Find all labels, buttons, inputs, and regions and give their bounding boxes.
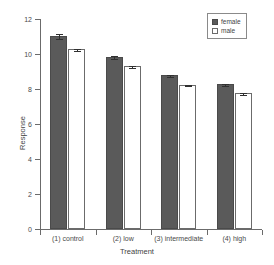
open-square-icon (212, 28, 218, 34)
bar-male-4 (235, 93, 252, 229)
y-tick-label: 12 (24, 16, 32, 23)
bar-male-1 (68, 49, 85, 229)
legend-label-female: female (221, 18, 241, 25)
error-bar-cap-lower-female-1 (56, 39, 63, 40)
legend-item-male: male (212, 26, 241, 35)
bar-male-2 (124, 66, 141, 229)
error-bar-cap-lower-female-3 (167, 77, 174, 78)
error-bar-cap-upper-female-3 (167, 75, 174, 76)
bar-female-1 (50, 36, 67, 230)
y-tick (35, 124, 40, 125)
x-tick-label-3: (3) intermediate (154, 235, 203, 243)
x-tick-label-4: (4) high (222, 235, 246, 243)
legend: female male (207, 13, 247, 39)
y-tick (35, 194, 40, 195)
error-bar-cap-lower-male-4 (240, 95, 247, 96)
y-tick (35, 89, 40, 90)
y-axis-title: Response (18, 116, 27, 150)
x-tick (262, 230, 263, 235)
error-bar-cap-lower-male-3 (185, 86, 192, 87)
error-bar-cap-upper-female-2 (111, 56, 118, 57)
y-tick-label: 8 (28, 86, 32, 93)
x-tick (207, 230, 208, 235)
error-bar-cap-lower-female-4 (222, 86, 229, 87)
y-axis-line (40, 19, 41, 230)
error-bar-cap-lower-female-2 (111, 59, 118, 60)
x-tick-label-1: (1) control (52, 235, 84, 243)
x-tick (96, 230, 97, 235)
error-bar-cap-upper-male-4 (240, 93, 247, 94)
filled-square-icon (212, 19, 218, 25)
x-tick (151, 230, 152, 235)
legend-label-male: male (221, 27, 235, 34)
x-tick-label-2: (2) low (113, 235, 134, 243)
y-tick-label: 0 (28, 226, 32, 233)
bar-chart-figure: Response Treatment 024681012 (1) control… (0, 0, 274, 265)
y-tick-label: 4 (28, 156, 32, 163)
x-tick (40, 230, 41, 235)
bar-female-4 (217, 84, 234, 229)
x-axis-title: Treatment (0, 247, 274, 256)
y-tick (35, 159, 40, 160)
error-bar-cap-upper-female-1 (56, 34, 63, 35)
error-bar-cap-lower-male-2 (129, 68, 136, 69)
y-tick (35, 54, 40, 55)
y-tick-label: 2 (28, 191, 32, 198)
bar-female-3 (161, 75, 178, 229)
plot-area: 024681012 (1) control(2) low(3) intermed… (40, 19, 262, 230)
y-tick-label: 6 (28, 121, 32, 128)
bar-female-2 (106, 57, 123, 230)
error-bar-cap-upper-male-1 (74, 49, 81, 50)
y-tick-label: 10 (24, 51, 32, 58)
legend-item-female: female (212, 17, 241, 26)
error-bar-cap-lower-male-1 (74, 51, 81, 52)
bar-male-3 (179, 85, 196, 230)
y-tick (35, 19, 40, 20)
